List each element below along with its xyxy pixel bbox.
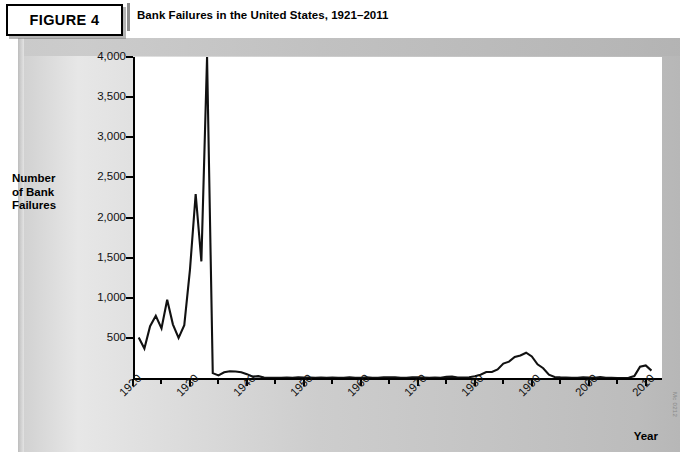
y-axis-tick-mark [126,337,133,339]
y-axis-tick-label: 1,500 [97,251,126,263]
line-series-svg [133,57,660,378]
figure-container: FIGURE 4 Bank Failures in the United Sta… [0,0,680,452]
y-axis-tick-label: 2,000 [97,211,126,223]
y-axis-tick-label: 3,500 [97,90,126,102]
y-axis-tick-label: 1,000 [97,291,126,303]
y-axis-tick-label: 2,500 [97,170,126,182]
x-axis-minor-tick-mark [616,379,618,384]
y-axis-tick-mark [126,297,133,299]
y-axis-tick-mark [126,136,133,138]
x-axis-minor-tick-mark [559,379,561,384]
x-axis-tick-labels: 1920193019401950196019701980199020002010 [133,388,673,428]
y-axis-title-line: Number [12,172,76,186]
chart-plot-wrapper: 5001,0001,5002,0002,5003,0003,5004,000 N… [0,0,680,452]
y-axis-title: Numberof BankFailures [12,172,76,213]
y-axis-tick-labels: 5001,0001,5002,0002,5003,0003,5004,000 [78,0,126,452]
y-axis-tick-mark [126,176,133,178]
y-axis-tick-label: 4,000 [97,50,126,62]
y-axis-tick-mark [126,257,133,259]
y-axis-tick-label: 500 [107,331,126,343]
x-axis-title: Year [634,430,658,442]
y-axis-title-line: Failures [12,199,76,213]
y-axis-tick-label: 3,000 [97,130,126,142]
x-axis-minor-tick-mark [217,379,219,384]
x-axis-minor-tick-mark [331,379,333,384]
x-axis-minor-tick-mark [160,379,162,384]
x-axis-minor-tick-mark [388,379,390,384]
x-axis-minor-tick-mark [274,379,276,384]
y-axis-tick-mark [126,96,133,98]
y-axis-title-line: of Bank [12,186,76,200]
source-credit: Mc 0212 [672,392,678,417]
y-axis-tick-mark [126,56,133,58]
y-axis-tick-mark [126,217,133,219]
x-axis-minor-tick-mark [445,379,447,384]
x-axis-minor-tick-mark [502,379,504,384]
